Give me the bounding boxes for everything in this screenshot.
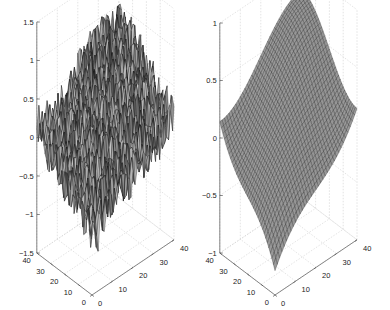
right-x-tick-label: 20: [322, 271, 330, 280]
right-y-tick-label: 20: [233, 277, 241, 286]
right-z-tick-label: 0.5: [206, 76, 216, 85]
noisy-surface-canvas: 1.510.50−0.5−1−1.5403020100010203040: [0, 0, 195, 310]
left-y-tick-label: 40: [22, 256, 30, 265]
left-z-tick-label: 0.5: [23, 95, 33, 104]
left-x-tick-label: 20: [139, 271, 147, 280]
left-x-tick-label: 40: [180, 244, 188, 253]
left-z-tick-label: 1: [30, 56, 34, 65]
left-y-tick-label: 20: [50, 277, 58, 286]
left-x-tick-label: 10: [119, 285, 127, 294]
left-z-tick-label: −1: [25, 210, 34, 219]
right-z-tick-label: 0: [213, 134, 217, 143]
left-x-tick-label: 30: [160, 258, 168, 267]
right-x-tick-label: 30: [343, 258, 351, 267]
left-z-tick-label: −0.5: [19, 172, 34, 181]
right-x-tick-label: 10: [302, 285, 310, 294]
right-y-tick-label: 30: [219, 267, 227, 276]
right-x-tick-label: 0: [281, 299, 285, 308]
noisy-surface-plot: 1.510.50−0.5−1−1.5403020100010203040: [0, 0, 195, 310]
left-x-tick-label: 0: [98, 299, 102, 308]
left-y-tick-label: 30: [36, 267, 44, 276]
right-y-tick-label: 0: [265, 298, 269, 307]
right-z-tick-label: 1: [213, 19, 217, 28]
smooth-surface-canvas: 10.50−0.5−1403020100010203040: [195, 0, 390, 310]
right-z-tick-label: −0.5: [202, 191, 217, 200]
left-y-tick-label: 10: [64, 288, 72, 297]
left-z-tick-label: 1.5: [23, 18, 33, 27]
right-y-tick-label: 40: [205, 256, 213, 265]
smooth-surface-plot: 10.50−0.5−1403020100010203040: [195, 0, 390, 310]
right-y-tick-label: 10: [247, 288, 255, 297]
left-z-tick-label: 0: [30, 133, 34, 142]
left-y-tick-label: 0: [82, 298, 86, 307]
right-x-tick-label: 40: [363, 244, 371, 253]
